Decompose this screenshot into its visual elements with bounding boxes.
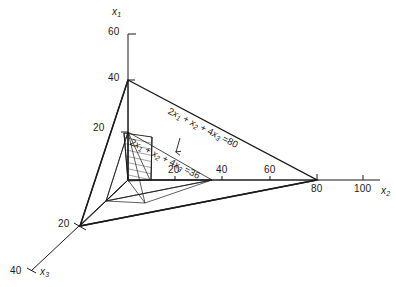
tick-label-x3-40: 40 — [10, 266, 22, 276]
figure-canvas: x1 60 40 20 20 40 60 80 100 x2 20 40 x3 … — [0, 0, 396, 287]
plane-80-triangle — [80, 80, 317, 226]
tick-label-x1-20: 20 — [93, 123, 105, 133]
axis-x2 — [128, 174, 380, 180]
tick-label-x1-40: 40 — [108, 73, 120, 83]
axis-label-x1: x1 — [112, 7, 121, 17]
tick-label-x2-100: 100 — [354, 184, 371, 194]
axis-label-x3: x3 — [40, 267, 49, 277]
plane-80-construction-edges — [80, 80, 317, 226]
annotation-arrow-36 — [176, 138, 180, 152]
axis-label-x2: x2 — [381, 186, 390, 196]
plot-svg — [0, 0, 396, 287]
tick-label-x3-20: 20 — [58, 219, 70, 229]
tick-label-x2-60: 60 — [264, 165, 276, 175]
tick-label-x2-80: 80 — [311, 184, 323, 194]
tick-label-x2-40: 40 — [216, 165, 228, 175]
tick-label-x1-60: 60 — [108, 27, 120, 37]
plane-36-triangle — [106, 132, 212, 201]
